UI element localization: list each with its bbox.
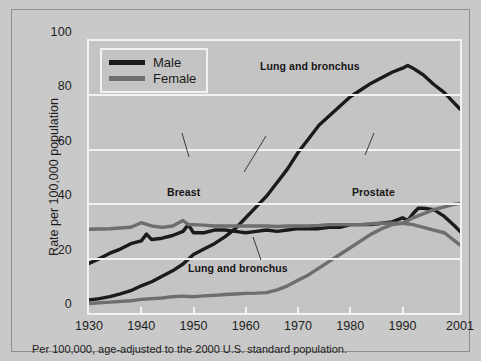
annotation-male-lung: Lung and bronchus: [260, 60, 360, 72]
y-axis-tick-label: 100: [26, 25, 72, 39]
x-axis-tick-label: 1930: [75, 319, 103, 333]
y-axis-tick-label: 60: [26, 134, 72, 148]
x-axis-tick-label: 1970: [284, 319, 312, 333]
figure-caption: Per 100,000, age-adjusted to the 2000 U.…: [32, 343, 347, 355]
legend-item: Male: [109, 54, 196, 70]
legend-label-male: Male: [153, 56, 181, 69]
y-axis-tick-label: 80: [26, 79, 72, 93]
x-axis-tick-label: 1980: [336, 319, 364, 333]
x-axis-tick-label: 2001: [446, 319, 474, 333]
legend-swatch-female: [109, 76, 145, 81]
y-axis-tick-label: 20: [26, 243, 72, 257]
figure-plate: Rate per 100,000 population 020406080100…: [11, 9, 470, 352]
y-axis-tick-label: 0: [26, 297, 72, 311]
annotation-prostate: Prostate: [352, 186, 395, 198]
annotation-breast: Breast: [167, 186, 200, 198]
figure-root: Rate per 100,000 population 020406080100…: [0, 0, 481, 361]
x-axis-tick-label: 1960: [232, 319, 260, 333]
annotation-female-lung: Lung and bronchus: [188, 262, 288, 274]
legend-item: Female: [109, 70, 196, 86]
legend-swatch-male: [109, 60, 145, 65]
x-axis-tick-label: 1990: [389, 319, 417, 333]
y-axis-tick-label: 40: [26, 188, 72, 202]
y-axis-label-wrap: Rate per 100,000 population: [30, 30, 52, 320]
legend: Male Female: [100, 48, 208, 93]
legend-label-female: Female: [153, 72, 196, 85]
x-axis-tick-label: 1950: [180, 319, 208, 333]
x-axis-tick-label: 1940: [127, 319, 155, 333]
